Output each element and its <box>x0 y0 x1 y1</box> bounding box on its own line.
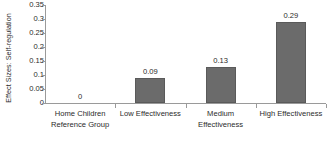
y-axis-tick-label: 0.35 <box>12 1 44 9</box>
y-axis-tick-label: 0.25 <box>12 29 44 37</box>
bar-value-label: 0.09 <box>130 67 170 76</box>
x-axis-tick-mark <box>326 104 327 108</box>
x-axis-category-label-line: Effectiveness <box>186 119 256 130</box>
x-axis-category-labels: Home ChildrenReference GroupLow Effectiv… <box>45 108 326 148</box>
x-axis-category-label: High Effectiveness <box>256 108 326 119</box>
x-axis-category-label-line: Medium <box>186 108 256 119</box>
x-axis-category-label: Home ChildrenReference Group <box>45 108 115 130</box>
y-axis-tick-label: 0.3 <box>12 15 44 23</box>
bar <box>206 67 236 103</box>
y-axis-tick-mark <box>42 61 46 62</box>
y-axis-tick-label: 0.2 <box>12 43 44 51</box>
y-axis-tick-label: 0.15 <box>12 57 44 65</box>
x-axis-category-label-line: High Effectiveness <box>256 108 326 119</box>
plot-area: 00.090.130.29 <box>45 5 326 103</box>
x-axis-category-label-line: Low Effectiveness <box>115 108 185 119</box>
y-axis-tick-label: 0.05 <box>12 85 44 93</box>
y-axis-tick-label: 0.1 <box>12 71 44 79</box>
bar-value-label: 0.13 <box>201 56 241 65</box>
x-axis-category-label: MediumEffectiveness <box>186 108 256 130</box>
x-axis-category-label-line: Home Children <box>45 108 115 119</box>
x-axis-category-label-line: Reference Group <box>45 119 115 130</box>
y-axis-tick-labels: 00.050.10.150.20.250.30.35 <box>12 0 44 110</box>
y-axis-tick-mark <box>42 47 46 48</box>
bar <box>276 22 306 103</box>
bar-chart: Effect Sizes: Self-regulation 00.050.10.… <box>0 0 331 151</box>
y-axis-tick-mark <box>42 5 46 6</box>
y-axis-tick-mark <box>42 89 46 90</box>
y-axis-tick-mark <box>42 103 46 104</box>
bar-value-label: 0.29 <box>271 11 311 20</box>
y-axis-tick-label: 0 <box>12 99 44 107</box>
y-axis-tick-mark <box>42 33 46 34</box>
x-axis-category-label: Low Effectiveness <box>115 108 185 119</box>
y-axis-tick-mark <box>42 19 46 20</box>
bar <box>135 78 165 103</box>
bar-value-label: 0 <box>60 92 100 101</box>
y-axis-tick-mark <box>42 75 46 76</box>
